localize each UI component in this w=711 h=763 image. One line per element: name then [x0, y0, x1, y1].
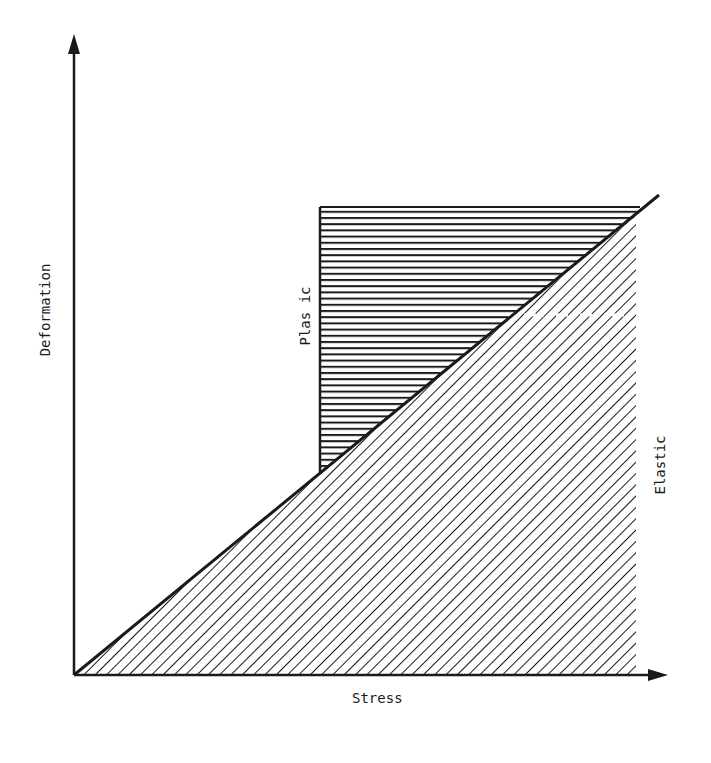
y-axis-label: Deformation: [37, 260, 53, 360]
y-axis-arrow-icon: [68, 34, 80, 54]
x-axis-label: Stress: [352, 690, 403, 706]
stress-deformation-diagram: Stress Deformation Plas ic Elastic: [0, 0, 711, 763]
diagram-canvas: [0, 0, 711, 763]
x-axis-arrow-icon: [648, 669, 668, 681]
y-axis: [68, 34, 80, 675]
elastic-region-label: Elastic: [652, 425, 668, 505]
plastic-region-label: Plas ic: [297, 281, 313, 351]
